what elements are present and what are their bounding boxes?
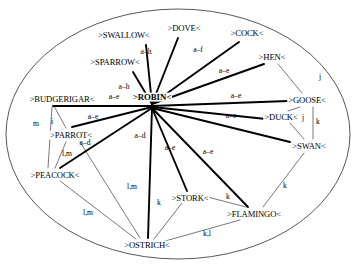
lbl-bud-parrot: i [51,118,53,126]
node-budgerigar[interactable]: >BUDGERIGAR< [29,95,96,104]
node-cock[interactable]: >COCK< [230,29,265,38]
lbl-goose-swan: k [316,118,320,126]
lbl-parrot: a–e [88,113,99,121]
lbl-bud-peacock: m [33,120,39,128]
node-peacock[interactable]: >PEACOCK< [30,171,81,180]
lbl-duck: a–e [226,112,237,120]
node-goose[interactable]: >GOOSE< [287,96,327,105]
edge-stork-ostrich [154,203,182,239]
lbl-parrot-ost: l,m [127,183,137,191]
lbl-swallow: a–h [141,48,152,56]
edge-robin-goose [152,101,288,106]
lbl-ostrich: a–d [135,132,146,140]
node-dove[interactable]: >DOVE< [167,24,202,33]
lbl-flamingo: a–e [203,148,214,156]
lbl-goose-duck: j [302,114,304,122]
edge-budgerigar-parrot [54,106,66,128]
edge-swan-flamingo [263,153,304,207]
lbl-stork-ost: k [157,199,161,207]
lbl-parrot-pea: l,m [62,150,72,158]
lbl-hen-goose: j [319,73,321,81]
semantic-network-diagram: >ROBIN<>SWALLOW<>DOVE<>COCK<>HEN<>SPARRO… [0,0,357,269]
node-duck[interactable]: >DUCK< [263,113,298,122]
node-robin[interactable]: >ROBIN< [132,93,172,102]
node-swallow[interactable]: >SWALLOW< [97,31,151,40]
node-ostrich[interactable]: >OSTRICH< [123,241,171,250]
edge-robin-ostrich [148,108,152,238]
lbl-stork-flam: k [226,193,230,201]
lbl-ost-flam: k,l [203,230,211,238]
lbl-stork: a–e [165,144,176,152]
lbl-cock-hen: a–e [219,67,230,75]
node-hen[interactable]: >HEN< [258,53,287,62]
lbl-dove: a–f [193,46,203,54]
edge-ostrich-flamingo [158,220,240,243]
lbl-peacock: a–d [80,139,91,147]
lbl-pea-ostrich: l,m [83,209,93,217]
edge-goose-duck [288,107,300,111]
lbl-goose: a–e [231,92,242,100]
edge-duck-swan [290,123,304,139]
edge-hen-goose [278,64,302,93]
node-stork[interactable]: >STORK< [170,194,209,203]
lbl-sparrow: a–h [119,83,130,91]
edge-robin-parrot [72,107,152,127]
lbl-swan-flam: k [283,182,287,190]
node-swan[interactable]: >SWAN< [291,142,326,151]
node-flamingo[interactable]: >FLAMINGO< [226,210,282,219]
node-sparrow[interactable]: >SPARROW< [89,58,141,67]
edge-peacock-ostrich [60,181,136,239]
lbl-budgerigar: a–e [109,93,120,101]
